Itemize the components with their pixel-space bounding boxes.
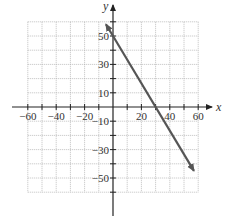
x-tick-label: 40: [164, 110, 176, 122]
line-segment: [113, 36, 194, 171]
x-axis-label: x: [215, 100, 222, 114]
y-tick-label: −10: [92, 115, 110, 127]
y-tick-label: 50: [98, 30, 110, 42]
x-tick-label: −40: [48, 110, 66, 122]
y-tick-label: 10: [98, 87, 110, 99]
x-tick-label: −60: [19, 110, 37, 122]
data-line: [106, 24, 194, 171]
y-tick-label: −30: [92, 144, 110, 156]
y-axis-label: y: [102, 0, 109, 13]
x-tick-label: 20: [136, 110, 148, 122]
x-tick-label: 60: [193, 110, 205, 122]
y-tick-label: 30: [98, 58, 110, 70]
y-tick-label: −50: [92, 172, 110, 184]
coordinate-plane: −60−40−20204060503010−10−30−50 x y: [0, 0, 226, 221]
